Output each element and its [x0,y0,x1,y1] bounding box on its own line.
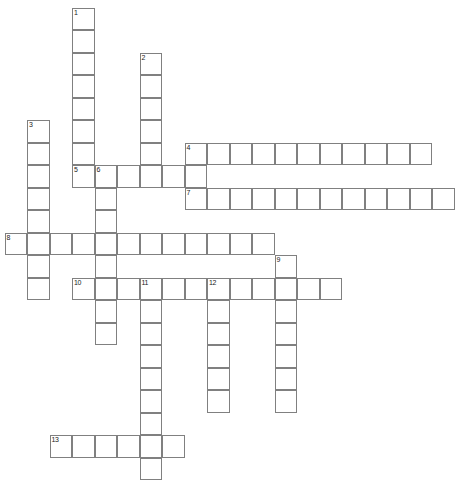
crossword-cell[interactable] [275,345,298,368]
crossword-cell[interactable] [207,188,230,211]
crossword-cell[interactable] [117,278,140,301]
crossword-cell[interactable] [207,278,230,301]
crossword-cell[interactable] [72,98,95,121]
crossword-cell[interactable] [72,120,95,143]
crossword-cell[interactable] [72,75,95,98]
crossword-cell[interactable] [5,233,28,256]
crossword-cell[interactable] [185,165,208,188]
crossword-cell[interactable] [230,188,253,211]
crossword-cell[interactable] [207,300,230,323]
crossword-cell[interactable] [140,458,163,480]
crossword-cell[interactable] [410,188,433,211]
crossword-cell[interactable] [27,278,50,301]
crossword-cell[interactable] [207,323,230,346]
crossword-cell[interactable] [185,143,208,166]
crossword-cell[interactable] [252,233,275,256]
crossword-cell[interactable] [140,98,163,121]
crossword-cell[interactable] [72,165,95,188]
crossword-cell[interactable] [140,53,163,76]
crossword-cell[interactable] [117,435,140,458]
crossword-cell[interactable] [252,278,275,301]
crossword-cell[interactable] [27,233,50,256]
crossword-cell[interactable] [140,233,163,256]
crossword-cell[interactable] [275,368,298,391]
crossword-cell[interactable] [230,278,253,301]
crossword-cell[interactable] [275,143,298,166]
crossword-cell[interactable] [140,368,163,391]
crossword-cell[interactable] [275,323,298,346]
crossword-cell[interactable] [27,165,50,188]
crossword-cell[interactable] [27,143,50,166]
crossword-cell[interactable] [50,435,73,458]
crossword-cell[interactable] [162,278,185,301]
crossword-cell[interactable] [185,278,208,301]
crossword-cell[interactable] [140,300,163,323]
crossword-cell[interactable] [95,278,118,301]
crossword-cell[interactable] [27,188,50,211]
crossword-cell[interactable] [72,278,95,301]
crossword-cell[interactable] [140,413,163,436]
crossword-cell[interactable] [140,120,163,143]
crossword-cell[interactable] [162,435,185,458]
crossword-cell[interactable] [320,278,343,301]
crossword-cell[interactable] [117,233,140,256]
crossword-cell[interactable] [387,143,410,166]
crossword-cell[interactable] [320,188,343,211]
crossword-cell[interactable] [140,345,163,368]
crossword-cell[interactable] [410,143,433,166]
crossword-cell[interactable] [365,143,388,166]
crossword-cell[interactable] [72,143,95,166]
crossword-cell[interactable] [27,210,50,233]
crossword-cell[interactable] [140,390,163,413]
crossword-cell[interactable] [207,390,230,413]
crossword-cell[interactable] [72,30,95,53]
crossword-cell[interactable] [297,143,320,166]
crossword-cell[interactable] [72,435,95,458]
crossword-cell[interactable] [72,233,95,256]
crossword-cell[interactable] [342,143,365,166]
crossword-cell[interactable] [185,233,208,256]
crossword-cell[interactable] [387,188,410,211]
crossword-cell[interactable] [185,188,208,211]
crossword-cell[interactable] [275,390,298,413]
crossword-cell[interactable] [140,435,163,458]
crossword-cell[interactable] [207,368,230,391]
crossword-cell[interactable] [95,233,118,256]
crossword-cell[interactable] [297,278,320,301]
crossword-cell[interactable] [95,210,118,233]
crossword-cell[interactable] [230,233,253,256]
crossword-cell[interactable] [252,188,275,211]
crossword-cell[interactable] [95,165,118,188]
crossword-cell[interactable] [50,233,73,256]
crossword-cell[interactable] [95,323,118,346]
crossword-cell[interactable] [140,323,163,346]
crossword-cell[interactable] [95,300,118,323]
crossword-cell[interactable] [162,233,185,256]
crossword-cell[interactable] [320,143,343,166]
crossword-cell[interactable] [72,8,95,31]
crossword-cell[interactable] [72,53,95,76]
crossword-cell[interactable] [27,120,50,143]
crossword-cell[interactable] [275,300,298,323]
crossword-cell[interactable] [95,435,118,458]
crossword-cell[interactable] [365,188,388,211]
crossword-cell[interactable] [275,278,298,301]
crossword-cell[interactable] [95,255,118,278]
crossword-cell[interactable] [207,233,230,256]
crossword-cell[interactable] [230,143,253,166]
crossword-cell[interactable] [140,278,163,301]
crossword-cell[interactable] [432,188,455,211]
crossword-cell[interactable] [117,165,140,188]
crossword-cell[interactable] [207,345,230,368]
crossword-cell[interactable] [140,143,163,166]
crossword-cell[interactable] [95,188,118,211]
crossword-cell[interactable] [275,188,298,211]
crossword-cell[interactable] [27,255,50,278]
crossword-cell[interactable] [140,75,163,98]
crossword-cell[interactable] [252,143,275,166]
crossword-cell[interactable] [140,165,163,188]
crossword-cell[interactable] [342,188,365,211]
crossword-cell[interactable] [162,165,185,188]
crossword-cell[interactable] [275,255,298,278]
crossword-cell[interactable] [297,188,320,211]
